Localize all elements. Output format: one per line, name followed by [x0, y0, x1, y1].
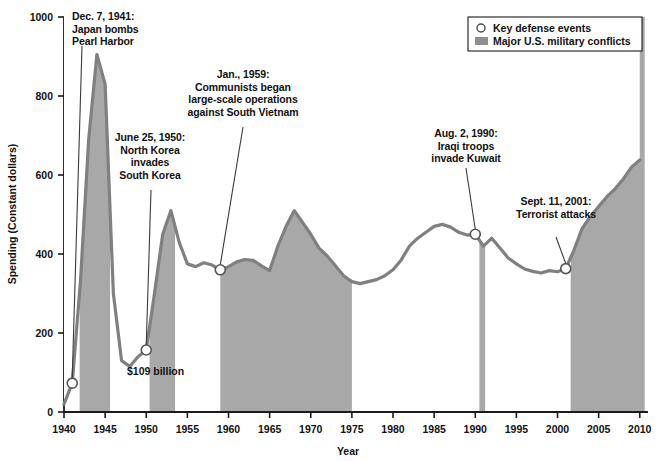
- y-tick-label: 1000: [30, 11, 54, 23]
- y-axis-title: Spending (Constant dollars): [6, 144, 18, 285]
- chart-legend[interactable]: Key defense events Major U.S. military c…: [468, 17, 642, 51]
- x-tick-label: 2010: [628, 423, 652, 435]
- filled-square-icon: [475, 37, 488, 45]
- x-tick-label: 1945: [93, 423, 117, 435]
- legend-item-military-conflicts: Major U.S. military conflicts: [493, 35, 631, 47]
- y-tick-label: 400: [35, 248, 53, 260]
- x-tick-label: 1980: [381, 423, 405, 435]
- circle-open-icon: [477, 24, 485, 32]
- legend-item-key-defense-events: Key defense events: [493, 22, 591, 34]
- x-tick-label: 1970: [299, 423, 323, 435]
- y-tick-label: 0: [47, 406, 53, 418]
- x-tick-label: 1985: [422, 423, 446, 435]
- x-axis-ticks: 1940194519501955196019651970197519801985…: [52, 412, 651, 435]
- annotation-vietnam: Jan., 1959: Communists began large-scale…: [160, 68, 326, 118]
- x-tick-label: 2005: [587, 423, 611, 435]
- chart-canvas: 1940194519501955196019651970197519801985…: [0, 0, 658, 461]
- x-tick-label: 1965: [258, 423, 282, 435]
- annotation-pearl-harbor: Dec. 7, 1941: Japan bombs Pearl Harbor: [72, 10, 139, 48]
- x-tick-label: 1940: [52, 423, 76, 435]
- x-tick-label: 1950: [135, 423, 159, 435]
- x-tick-label: 1955: [176, 423, 200, 435]
- y-tick-label: 200: [35, 327, 53, 339]
- y-tick-label: 600: [35, 169, 53, 181]
- key-defense-event-marker[interactable]: [141, 345, 151, 355]
- x-tick-label: 1960: [217, 423, 241, 435]
- key-defense-event-marker[interactable]: [67, 378, 77, 388]
- defense-spending-chart: 1940194519501955196019651970197519801985…: [0, 0, 658, 461]
- key-defense-event-marker[interactable]: [215, 265, 225, 275]
- x-tick-label: 1995: [505, 423, 529, 435]
- key-defense-event-marker[interactable]: [561, 264, 571, 274]
- annotation-sept-11: Sept. 11, 2001: Terrorist attacks: [494, 195, 618, 220]
- data-label-109-billion: $109 billion: [127, 365, 184, 377]
- y-axis-ticks: 02004006008001000: [30, 11, 64, 418]
- x-tick-label: 1975: [340, 423, 364, 435]
- key-defense-event-marker[interactable]: [470, 229, 480, 239]
- x-tick-label: 2000: [546, 423, 570, 435]
- annotation-kuwait: Aug. 2, 1990: Iraqi troops invade Kuwait: [404, 127, 528, 165]
- annotation-korean-war: June 25, 1950: North Korea invades South…: [98, 131, 202, 181]
- x-axis-title: Year: [337, 445, 359, 457]
- y-tick-label: 800: [35, 90, 53, 102]
- x-tick-label: 1990: [464, 423, 488, 435]
